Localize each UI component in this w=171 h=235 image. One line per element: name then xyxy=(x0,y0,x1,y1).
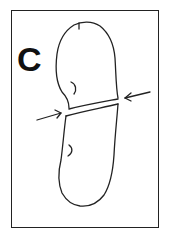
upper-segment-outline xyxy=(56,22,118,108)
lower-curve-mark xyxy=(68,145,72,156)
specimen-drawing xyxy=(0,0,171,235)
division-line-upper xyxy=(69,99,118,109)
upper-curve-mark xyxy=(71,82,76,94)
division-line-lower xyxy=(66,104,118,116)
lower-segment-outline xyxy=(59,104,118,206)
